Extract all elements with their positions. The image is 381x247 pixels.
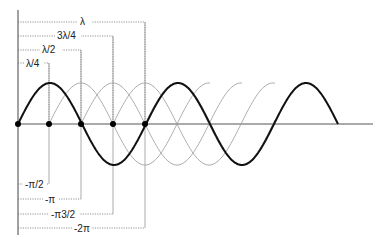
wavelength-labels: λ 3λ/4 λ/2 λ/4 — [24, 15, 92, 69]
label-lambda: λ — [80, 16, 85, 27]
bottom-guides — [18, 184, 145, 228]
label-3lambda-4: 3λ/4 — [57, 30, 76, 41]
phase-labels: -π/2 -π -π3/2 -2π — [23, 178, 92, 234]
label-minus-2pi: -2π — [74, 223, 90, 234]
label-minus-3pi-2: -π3/2 — [51, 209, 76, 220]
label-minus-pi-2: -π/2 — [25, 179, 44, 190]
wave-phase-diagram: λ 3λ/4 λ/2 λ/4 -π/2 -π -π3/2 -2π — [0, 0, 381, 247]
label-minus-pi: -π — [45, 194, 55, 205]
label-lambda-2: λ/2 — [42, 44, 56, 55]
top-guides — [18, 22, 145, 124]
label-lambda-4: λ/4 — [26, 58, 40, 69]
